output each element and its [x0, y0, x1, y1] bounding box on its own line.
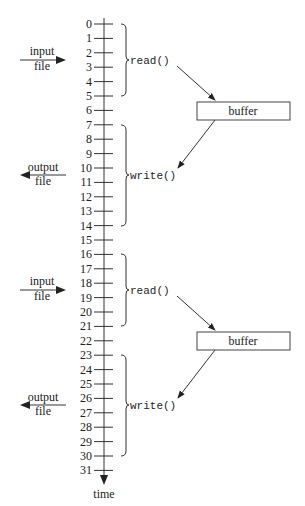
axis-tick-label: 22 — [80, 334, 92, 348]
phase-read-1: input file read() buffer — [20, 24, 290, 120]
input-file-label-1: input — [30, 44, 55, 58]
axis-tick-label: 10 — [80, 161, 92, 175]
output-file-label-2: output — [28, 390, 59, 404]
buffer-to-write-arrow-1 — [178, 120, 215, 168]
axis-tick-label: 29 — [80, 435, 92, 449]
axis-tick-label: 19 — [80, 291, 92, 305]
read-label-2: read() — [130, 285, 170, 297]
input-file-label-2: input — [30, 274, 55, 288]
axis-tick-label: 21 — [80, 319, 92, 333]
axis-tick-label: 8 — [86, 132, 92, 146]
axis-tick-label: 3 — [86, 60, 92, 74]
axis-tick-label: 28 — [80, 420, 92, 434]
phase-write-1: output file write() — [20, 120, 215, 226]
axis-tick-label: 9 — [86, 147, 92, 161]
write-label-1: write() — [130, 170, 176, 182]
brace-write-2 — [121, 355, 129, 456]
axis-tick-label: 16 — [80, 247, 92, 261]
axis-tick-label: 18 — [80, 276, 92, 290]
output-file-label-2b: file — [35, 404, 51, 418]
buffer-to-write-arrow-2 — [178, 350, 215, 398]
axis-tick-label: 7 — [86, 118, 92, 132]
axis-tick-label: 27 — [80, 406, 92, 420]
axis-tick-label: 15 — [80, 233, 92, 247]
arrow-right-icon — [56, 56, 66, 64]
buffer-label-2: buffer — [228, 334, 257, 348]
arrow-right-icon — [56, 286, 66, 294]
brace-read-1 — [121, 24, 129, 96]
axis-tick-label: 5 — [86, 89, 92, 103]
write-label-2: write() — [130, 400, 176, 412]
axis-tick-label: 6 — [86, 103, 92, 117]
buffer-label-1: buffer — [228, 104, 257, 118]
time-diagram: time 01234567891011121314151617181920212… — [0, 0, 305, 506]
axis-tick-label: 13 — [80, 204, 92, 218]
axis-tick-label: 14 — [80, 219, 92, 233]
figure-caption-clipped — [0, 499, 305, 506]
input-file-label-2b: file — [34, 289, 50, 303]
axis-tick-label: 24 — [80, 363, 92, 377]
axis-tick-label: 1 — [86, 31, 92, 45]
brace-write-1 — [121, 125, 129, 226]
axis-tick-label: 0 — [86, 17, 92, 31]
axis-tick-label: 23 — [80, 348, 92, 362]
axis-tick-label: 30 — [80, 449, 92, 463]
tick-group: 0123456789101112131415161718192021222324… — [80, 17, 113, 477]
phase-write-2: output file write() — [20, 350, 215, 456]
phase-read-2: input file read() buffer — [20, 254, 290, 350]
time-axis: time — [93, 18, 114, 501]
brace-read-2 — [121, 254, 129, 326]
axis-tick-label: 11 — [80, 175, 92, 189]
read-label-1: read() — [130, 55, 170, 67]
output-file-label-1b: file — [35, 174, 51, 188]
output-file-label-1: output — [28, 160, 59, 174]
axis-tick-label: 20 — [80, 305, 92, 319]
read-to-buffer-arrow-2 — [177, 296, 215, 330]
axis-tick-label: 17 — [80, 262, 92, 276]
axis-tick-label: 2 — [86, 46, 92, 60]
axis-tick-label: 25 — [80, 377, 92, 391]
axis-tick-label: 4 — [86, 75, 92, 89]
time-axis-arrow-icon — [100, 475, 108, 485]
input-file-label-1b: file — [34, 59, 50, 73]
axis-tick-label: 12 — [80, 190, 92, 204]
axis-tick-label: 26 — [80, 391, 92, 405]
axis-tick-label: 31 — [80, 463, 92, 477]
read-to-buffer-arrow-1 — [177, 66, 215, 100]
